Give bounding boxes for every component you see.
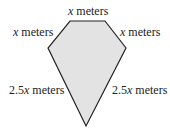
label-upper-right-side: x meters (120, 25, 160, 39)
label-lower-right-side: 2.5x meters (112, 83, 167, 97)
pentagon-diagram: x meters x meters x meters 2.5x meters 2… (0, 0, 170, 134)
label-lower-left-side: 2.5x meters (9, 83, 64, 97)
label-top-side: x meters (68, 4, 108, 18)
pentagon-shape (0, 0, 170, 134)
label-upper-left-side: x meters (13, 25, 53, 39)
